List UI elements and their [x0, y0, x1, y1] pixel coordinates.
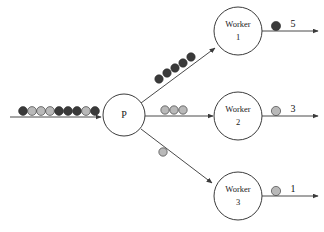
worker-1-label-top: Worker	[225, 19, 250, 29]
output-worker-3-token	[271, 186, 280, 195]
branch-worker-1-token	[179, 59, 187, 67]
input-queue-token	[28, 107, 37, 116]
worker-2-label-top: Worker	[225, 104, 250, 114]
output-worker-2-token	[271, 106, 280, 115]
output-worker-3-count: 1	[291, 183, 296, 194]
diagram-canvas: PWorker15Worker23Worker31	[0, 0, 324, 232]
producer-worker-diagram: PWorker15Worker23Worker31	[0, 0, 324, 232]
worker-1-label-index: 1	[236, 32, 240, 42]
input-queue-token	[46, 107, 55, 116]
branch-worker-1-token	[163, 69, 171, 77]
output-worker-1-token	[271, 21, 280, 30]
branch-worker-2-token	[161, 106, 169, 114]
input-queue-token	[73, 107, 82, 116]
branch-worker-2-token	[179, 106, 187, 114]
input-queue-token	[91, 107, 100, 116]
branch-worker-1-token	[155, 75, 163, 83]
output-worker-2-count: 3	[291, 103, 296, 114]
input-queue-token	[82, 107, 91, 116]
worker-3-label-index: 3	[236, 197, 240, 207]
branch-worker-2-token	[170, 106, 178, 114]
worker-3-label-top: Worker	[225, 184, 250, 194]
worker-2-label-index: 2	[236, 117, 240, 127]
output-worker-1-count: 5	[291, 18, 296, 29]
input-queue-token	[55, 107, 64, 116]
label-layer: PWorker15Worker23Worker31	[121, 18, 295, 207]
branch-worker-3-arrow	[141, 129, 212, 183]
producer-label: P	[121, 109, 127, 120]
branch-worker-1-token	[171, 64, 179, 72]
input-queue-token	[19, 107, 28, 116]
branch-worker-3-token	[159, 148, 167, 156]
input-queue-token	[37, 107, 46, 116]
input-queue-token	[64, 107, 73, 116]
branch-worker-1-arrow	[141, 48, 215, 103]
branch-worker-1-token	[187, 53, 195, 61]
